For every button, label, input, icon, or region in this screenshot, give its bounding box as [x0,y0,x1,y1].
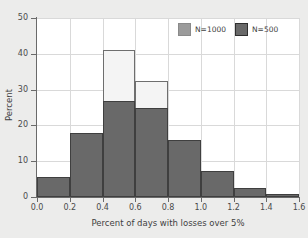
histogram-bar-n500 [37,177,70,197]
y-tick-label: 0 [0,193,28,201]
y-tick-mark [31,197,36,198]
x-tick-label: 1.2 [219,204,249,212]
histogram-bar-n500 [201,171,234,197]
x-tick-mark [201,198,202,202]
x-tick-label: 1.6 [284,204,308,212]
y-tick-mark [31,125,36,126]
y-tick-mark [31,54,36,55]
plot-area [37,18,299,197]
histogram-bar-n500 [234,188,267,197]
gridline-vertical [266,18,267,197]
x-tick-label: 0.4 [88,204,118,212]
y-tick-mark [31,90,36,91]
x-tick-label: 0.0 [22,204,52,212]
histogram-bar-n500 [103,101,136,197]
histogram-bar-n500 [168,140,201,197]
dark-gray-swatch-icon [235,23,248,36]
y-tick-label: 10 [0,157,28,165]
x-tick-mark [70,198,71,202]
legend-label-n1000: N=1000 [195,25,226,34]
x-tick-label: 0.8 [153,204,183,212]
x-tick-label: 1.4 [251,204,281,212]
y-axis-title: Percent [4,80,14,130]
gridline-vertical [299,18,300,197]
histogram-figure: 010203040500.00.20.40.60.81.01.21.41.6 P… [0,0,308,238]
x-tick-label: 1.0 [186,204,216,212]
legend-entry-n500: N=500 [235,23,278,36]
x-tick-mark [299,198,300,202]
x-tick-mark [37,198,38,202]
histogram-bar-n500 [135,108,168,198]
gridline-vertical [201,18,202,197]
x-tick-mark [103,198,104,202]
x-axis-title: Percent of days with losses over 5% [37,218,299,228]
y-tick-label: 50 [0,14,28,22]
chart-legend: N=1000 N=500 [178,23,278,36]
x-tick-mark [266,198,267,202]
legend-label-n500: N=500 [252,25,278,34]
y-tick-label: 40 [0,50,28,58]
legend-entry-n1000: N=1000 [178,23,226,36]
gridline-vertical [234,18,235,197]
y-tick-mark [31,161,36,162]
y-axis-line [36,17,37,198]
x-tick-mark [135,198,136,202]
x-tick-mark [168,198,169,202]
light-gray-swatch-icon [178,23,191,36]
x-tick-label: 0.6 [120,204,150,212]
histogram-bar-n500 [70,133,103,197]
y-tick-mark [31,18,36,19]
x-tick-label: 0.2 [55,204,85,212]
x-tick-mark [234,198,235,202]
